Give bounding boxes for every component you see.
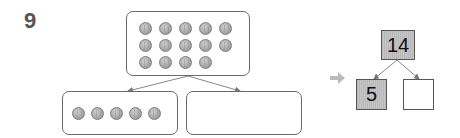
coin-icon	[159, 56, 172, 69]
left-group-box	[62, 91, 178, 135]
bond-part-known-box: 5	[356, 79, 387, 110]
coin-icon	[179, 56, 192, 69]
coin-icon	[219, 39, 232, 52]
coin-icon	[139, 22, 152, 35]
coin-icon	[139, 56, 152, 69]
coin-icon	[139, 39, 152, 52]
coin-icon	[148, 107, 161, 120]
coin-icon	[159, 39, 172, 52]
coin-icon	[159, 22, 172, 35]
coin-icon	[179, 22, 192, 35]
right-arrow-icon	[330, 72, 346, 84]
right-group-box-empty[interactable]	[186, 91, 302, 135]
coin-icon	[199, 39, 212, 52]
coin-icon	[199, 22, 212, 35]
coin-icon	[129, 107, 142, 120]
bond-whole-box: 14	[381, 30, 415, 60]
coin-icon	[219, 22, 232, 35]
coin-icon	[72, 107, 85, 120]
coin-icon	[110, 107, 123, 120]
coin-icon	[179, 39, 192, 52]
coin-icon	[199, 56, 212, 69]
bond-part-answer-box[interactable]	[403, 79, 434, 110]
top-group-box	[126, 11, 250, 76]
coin-icon	[91, 107, 104, 120]
